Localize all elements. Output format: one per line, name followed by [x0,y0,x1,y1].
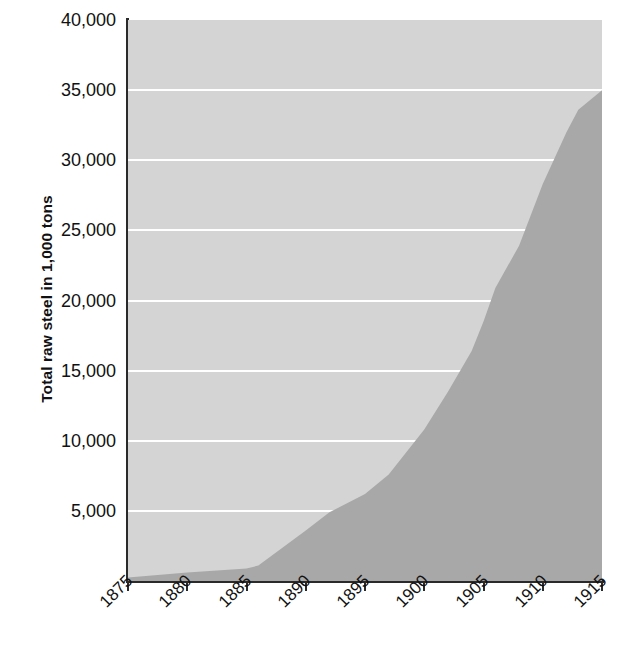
y-axis-tick-labels: 5,00010,00015,00020,00025,00030,00035,00… [0,0,122,652]
y-tick-label: 10,000 [0,430,122,451]
y-tick-label: 35,000 [0,80,122,101]
y-tick-label: 5,000 [0,500,122,521]
y-tick-label: 15,000 [0,360,122,381]
y-tick-label: 30,000 [0,150,122,171]
y-tick-label: 25,000 [0,220,122,241]
plot-area [128,20,602,581]
y-tick-label: 20,000 [0,290,122,311]
steel-production-area-chart: Total raw steel in 1,000 tons 5,00010,00… [0,0,626,652]
area-series-total-raw-steel [128,20,602,581]
y-tick-label: 40,000 [0,10,122,31]
